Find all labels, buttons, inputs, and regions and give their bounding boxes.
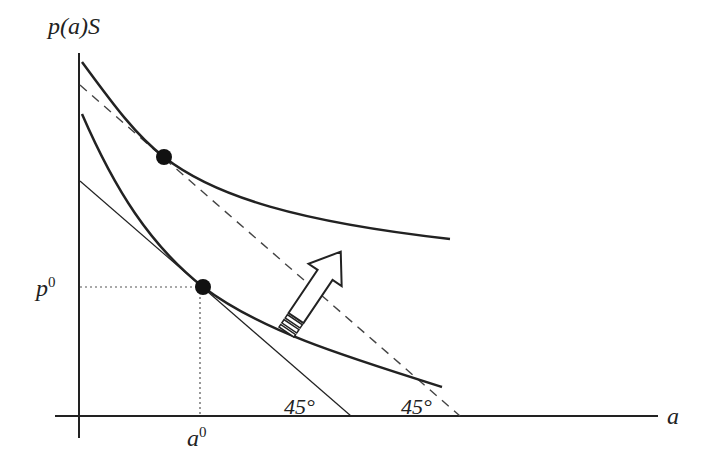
angle-label-dashed: 45°: [401, 394, 432, 419]
a0-label: a0: [187, 424, 207, 451]
lower-curve: [82, 114, 442, 387]
upper-curve: [82, 62, 450, 239]
lower-tangency-point: [195, 279, 211, 295]
shift-arrow-icon: [270, 240, 357, 343]
upper-tangency-point: [156, 149, 172, 165]
y-axis-label: p(a)S: [46, 13, 100, 39]
p0-label: p0: [34, 274, 56, 301]
angle-label-tangent: 45°: [284, 394, 315, 419]
dashed-45-line: [80, 85, 460, 416]
x-axis-label: a: [667, 403, 679, 429]
diagram-canvas: p(a)S a p0 a0 45° 45°: [0, 0, 712, 470]
